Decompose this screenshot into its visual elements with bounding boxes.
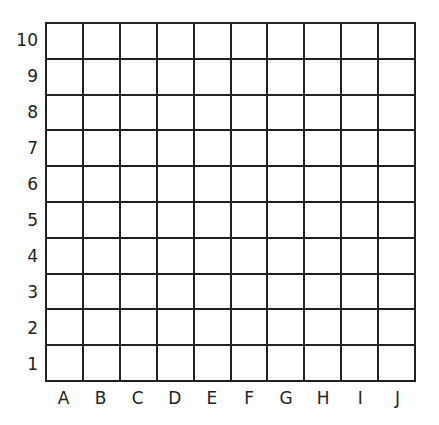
grid-cell-E6 (195, 167, 232, 203)
row-label: 3 (0, 274, 40, 310)
grid-cell-D10 (158, 24, 195, 60)
grid-cell-F3 (232, 275, 269, 311)
grid-cell-C1 (121, 346, 158, 382)
column-label: F (230, 385, 267, 411)
grid-cell-D3 (158, 275, 195, 311)
grid-cell-E2 (195, 310, 232, 346)
column-label: C (119, 385, 156, 411)
grid-cell-J3 (379, 275, 416, 311)
grid-cell-E9 (195, 60, 232, 96)
grid-cell-C7 (121, 131, 158, 167)
grid-cell-J10 (379, 24, 416, 60)
grid-cell-I9 (342, 60, 379, 96)
grid-cell-C3 (121, 275, 158, 311)
grid-cell-I4 (342, 239, 379, 275)
grid-cell-J8 (379, 96, 416, 132)
column-label: B (82, 385, 119, 411)
grid-cell-J4 (379, 239, 416, 275)
grid-cell-F2 (232, 310, 269, 346)
grid-cell-F10 (232, 24, 269, 60)
grid-cell-C8 (121, 96, 158, 132)
column-label: A (45, 385, 82, 411)
grid-cell-A5 (47, 203, 84, 239)
column-label: D (156, 385, 193, 411)
grid-cell-E1 (195, 346, 232, 382)
grid-cell-I6 (342, 167, 379, 203)
grid-cell-J5 (379, 203, 416, 239)
grid-cell-B6 (84, 167, 121, 203)
grid-cell-A8 (47, 96, 84, 132)
grid-cell-G6 (268, 167, 305, 203)
grid-cell-F8 (232, 96, 269, 132)
grid-cell-H4 (305, 239, 342, 275)
grid-cell-D2 (158, 310, 195, 346)
row-label: 9 (0, 58, 40, 94)
grid-cell-J6 (379, 167, 416, 203)
grid-cell-A4 (47, 239, 84, 275)
grid-cell-D5 (158, 203, 195, 239)
grid-cell-H6 (305, 167, 342, 203)
grid-cell-C5 (121, 203, 158, 239)
grid-cell-G7 (268, 131, 305, 167)
grid-cell-B10 (84, 24, 121, 60)
grid-cell-G10 (268, 24, 305, 60)
grid-cell-J9 (379, 60, 416, 96)
grid-cell-C4 (121, 239, 158, 275)
row-labels: 10 9 8 7 6 5 4 3 2 1 (0, 22, 40, 382)
grid-cell-B7 (84, 131, 121, 167)
grid-cell-J7 (379, 131, 416, 167)
grid-cell-H3 (305, 275, 342, 311)
column-label: G (268, 385, 305, 411)
column-label: J (379, 385, 416, 411)
grid-cell-I8 (342, 96, 379, 132)
grid-cell-C9 (121, 60, 158, 96)
grid-cell-F7 (232, 131, 269, 167)
column-labels: A B C D E F G H I J (45, 385, 416, 411)
grid-cell-A6 (47, 167, 84, 203)
grid-cell-B5 (84, 203, 121, 239)
grid-cell-H2 (305, 310, 342, 346)
grid-cell-A1 (47, 346, 84, 382)
grid-cell-B2 (84, 310, 121, 346)
grid-cell-C6 (121, 167, 158, 203)
grid-cell-G4 (268, 239, 305, 275)
grid-cell-H5 (305, 203, 342, 239)
grid-cell-E10 (195, 24, 232, 60)
grid-cell-A9 (47, 60, 84, 96)
grid-cell-J2 (379, 310, 416, 346)
grid-cell-A3 (47, 275, 84, 311)
grid-cell-G8 (268, 96, 305, 132)
row-label: 1 (0, 346, 40, 382)
grid-cell-H8 (305, 96, 342, 132)
grid-cell-I10 (342, 24, 379, 60)
row-label: 5 (0, 202, 40, 238)
grid-cell-E4 (195, 239, 232, 275)
grid-cell-G5 (268, 203, 305, 239)
grid-cell-I1 (342, 346, 379, 382)
grid-cell-I3 (342, 275, 379, 311)
column-label: E (193, 385, 230, 411)
grid-cell-E5 (195, 203, 232, 239)
column-label: H (305, 385, 342, 411)
grid-cell-H9 (305, 60, 342, 96)
grid-cell-I5 (342, 203, 379, 239)
grid-cell-C2 (121, 310, 158, 346)
grid-cell-G3 (268, 275, 305, 311)
grid-cell-F1 (232, 346, 269, 382)
grid-cell-D6 (158, 167, 195, 203)
row-label: 10 (0, 22, 40, 58)
grid-cell-A10 (47, 24, 84, 60)
grid-cell-E7 (195, 131, 232, 167)
grid-cell-B8 (84, 96, 121, 132)
grid-cell-H7 (305, 131, 342, 167)
row-label: 7 (0, 130, 40, 166)
grid-cell-D8 (158, 96, 195, 132)
grid-cell-G9 (268, 60, 305, 96)
grid-cell-F6 (232, 167, 269, 203)
grid-cell-B9 (84, 60, 121, 96)
grid-cell-C10 (121, 24, 158, 60)
grid-cell-F4 (232, 239, 269, 275)
grid-cell-J1 (379, 346, 416, 382)
grid-cell-F9 (232, 60, 269, 96)
row-label: 2 (0, 310, 40, 346)
